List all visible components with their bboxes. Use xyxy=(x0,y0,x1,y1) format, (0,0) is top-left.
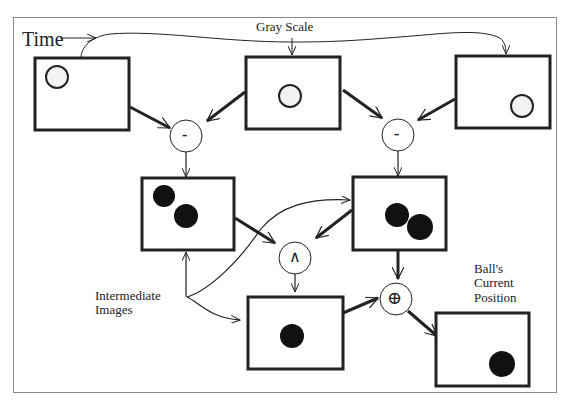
diagram-canvas xyxy=(0,0,569,407)
ball-current-position-label: Ball's Current Position xyxy=(474,262,517,305)
xor-symbol: ⊕ xyxy=(387,289,402,309)
diff-frame-1 xyxy=(142,178,234,250)
ball-filled xyxy=(153,185,175,207)
time-label: Time xyxy=(22,28,64,50)
subtract-right-symbol: - xyxy=(394,125,399,143)
ball-filled xyxy=(280,324,304,348)
ball-line3: Position xyxy=(474,291,517,305)
time-arrows xyxy=(60,32,506,57)
diff-frame-2 xyxy=(353,177,446,250)
intermediate-images-label: Intermediate Images xyxy=(95,289,161,318)
ball-hollow xyxy=(46,66,68,88)
current-position-frame xyxy=(436,313,529,386)
and-result-frame xyxy=(248,297,343,369)
intermediate-line1: Intermediate xyxy=(95,289,161,303)
frame-t1 xyxy=(35,58,129,130)
and-symbol: ∧ xyxy=(289,248,301,266)
gray-scale-label: Gray Scale xyxy=(256,20,313,34)
subtract-left-symbol: - xyxy=(182,126,187,144)
ball-filled xyxy=(174,204,198,228)
ball-filled xyxy=(407,214,433,240)
ball-filled xyxy=(385,203,409,227)
ball-hollow xyxy=(511,95,533,117)
frame-t2 xyxy=(246,57,340,129)
ball-hollow xyxy=(279,85,301,107)
ball-line1: Ball's xyxy=(474,262,517,276)
ball-filled xyxy=(489,351,515,377)
intermediate-line2: Images xyxy=(95,303,161,317)
frame-t3 xyxy=(456,56,550,128)
ball-line2: Current xyxy=(474,276,517,290)
